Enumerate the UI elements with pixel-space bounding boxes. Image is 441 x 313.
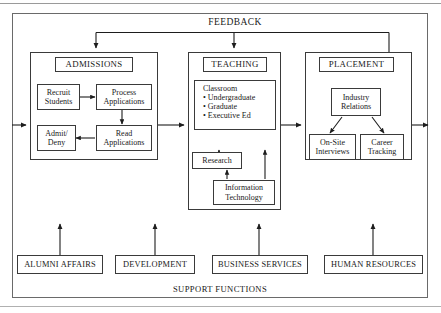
classroom-item-undergraduate: • Undergraduate	[203, 93, 275, 102]
arrow-industry-to-interviews	[330, 117, 342, 133]
classroom-item-1-label: Graduate	[208, 102, 237, 111]
node-classroom[interactable]: Classroom • Undergraduate • Graduate • E…	[194, 80, 276, 130]
node-read-applications[interactable]: Read Applications	[96, 125, 152, 151]
support-alumni-affairs[interactable]: ALUMNI AFFAIRS	[17, 255, 103, 274]
node-information-technology[interactable]: Information Technology	[213, 180, 275, 205]
diagram-canvas: FEEDBACK ADMISSIONS Recruit Students Pro…	[0, 0, 441, 313]
support-human-resources[interactable]: HUMAN RESOURCES	[324, 255, 423, 274]
admissions-header-box[interactable]: ADMISSIONS	[55, 57, 133, 72]
recruit-students-line2: Students	[45, 97, 73, 106]
classroom-item-2-label: Executive Ed	[208, 111, 251, 120]
classroom-item-0-label: Undergraduate	[208, 93, 255, 102]
support-development[interactable]: DEVELOPMENT	[115, 255, 195, 274]
career-tracking-line2: Tracking	[368, 147, 397, 156]
admit-deny-line1: Admit/	[45, 129, 68, 138]
node-recruit-students[interactable]: Recruit Students	[37, 84, 80, 110]
bullet-icon: •	[203, 111, 206, 120]
read-applications-line2: Applications	[104, 138, 145, 147]
industry-relations-line1: Industry	[343, 93, 370, 102]
information-technology-line1: Information	[225, 183, 263, 192]
on-site-interviews-line2: Interviews	[316, 147, 350, 156]
node-industry-relations[interactable]: Industry Relations	[331, 88, 381, 116]
classroom-heading: Classroom	[203, 84, 275, 93]
node-career-tracking[interactable]: Career Tracking	[360, 134, 404, 160]
node-on-site-interviews[interactable]: On-Site Interviews	[309, 134, 356, 160]
bullet-icon: •	[203, 102, 206, 111]
placement-header-box[interactable]: PLACEMENT	[319, 57, 394, 72]
node-admit-deny[interactable]: Admit/ Deny	[37, 125, 76, 151]
node-process-applications[interactable]: Process Applications	[96, 84, 152, 110]
information-technology-line2: Technology	[225, 193, 263, 202]
support-business-services[interactable]: BUSINESS SERVICES	[212, 255, 308, 274]
read-applications-line1: Read	[116, 129, 132, 138]
process-applications-line2: Applications	[104, 97, 145, 106]
teaching-header-box[interactable]: TEACHING	[203, 57, 267, 72]
admit-deny-line2: Deny	[48, 138, 65, 147]
recruit-students-line1: Recruit	[47, 88, 71, 97]
bullet-icon: •	[203, 93, 206, 102]
classroom-item-graduate: • Graduate	[203, 102, 275, 111]
process-applications-line1: Process	[112, 88, 136, 97]
industry-relations-line2: Relations	[341, 102, 371, 111]
on-site-interviews-line1: On-Site	[320, 138, 345, 147]
career-tracking-line1: Career	[371, 138, 392, 147]
arrow-industry-to-career	[372, 117, 384, 133]
classroom-item-executive-ed: • Executive Ed	[203, 111, 275, 120]
node-research[interactable]: Research	[192, 152, 242, 169]
